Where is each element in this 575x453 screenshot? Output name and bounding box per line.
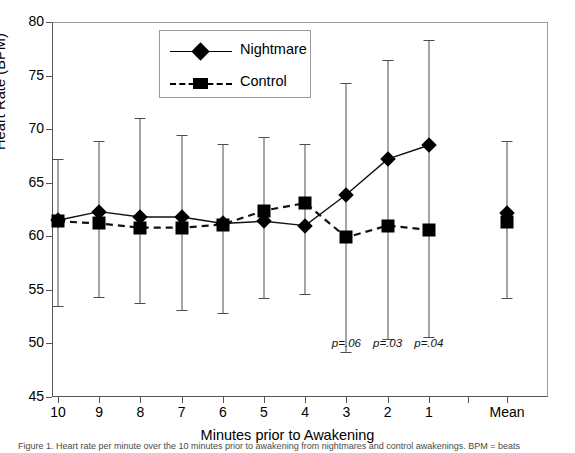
x-tick-mark bbox=[507, 397, 508, 403]
error-bar-cap bbox=[217, 144, 228, 145]
error-bar-cap bbox=[423, 40, 434, 41]
y-tick-mark bbox=[46, 290, 52, 291]
y-tick-mark bbox=[46, 129, 52, 130]
x-tick-mark bbox=[58, 397, 59, 403]
x-tick-label: 9 bbox=[79, 404, 119, 420]
diamond-icon bbox=[191, 42, 209, 60]
error-bar-cap bbox=[94, 141, 105, 142]
legend-item-control: Control bbox=[160, 71, 312, 97]
y-tick-mark bbox=[46, 22, 52, 23]
y-tick-mark bbox=[46, 236, 52, 237]
legend-item-nightmare: Nightmare bbox=[160, 39, 312, 65]
x-tick-label: 1 bbox=[409, 404, 449, 420]
data-point-control[interactable] bbox=[134, 221, 147, 234]
legend-sample-control bbox=[170, 77, 232, 91]
y-tick-label: 70 bbox=[6, 121, 44, 135]
x-tick-label: 6 bbox=[203, 404, 243, 420]
x-tick-label: 5 bbox=[244, 404, 284, 420]
p-value-label: p=.04 bbox=[399, 337, 459, 349]
x-tick-mark bbox=[182, 397, 183, 403]
error-bar-cap bbox=[135, 118, 146, 119]
x-tick-label: 2 bbox=[368, 404, 408, 420]
error-bar-cap bbox=[502, 141, 513, 142]
error-bar-cap bbox=[502, 298, 513, 299]
x-tick-mark bbox=[468, 397, 469, 403]
data-point-control[interactable] bbox=[93, 217, 106, 230]
y-tick-mark bbox=[46, 343, 52, 344]
x-tick-label: Mean bbox=[487, 404, 527, 420]
error-bar bbox=[346, 83, 347, 352]
error-bar-cap bbox=[217, 313, 228, 314]
error-bar-cap bbox=[53, 159, 64, 160]
data-point-control[interactable] bbox=[52, 215, 65, 228]
error-bar-cap bbox=[176, 135, 187, 136]
x-tick-mark bbox=[99, 397, 100, 403]
y-tick-label: 55 bbox=[6, 282, 44, 296]
y-tick-label: 65 bbox=[6, 175, 44, 189]
error-bar bbox=[428, 40, 429, 337]
error-bar-cap bbox=[300, 294, 311, 295]
x-tick-mark bbox=[140, 397, 141, 403]
x-tick-mark bbox=[305, 397, 306, 403]
error-bar-cap bbox=[135, 303, 146, 304]
error-bar-cap bbox=[259, 137, 270, 138]
y-tick-label: 80 bbox=[6, 14, 44, 28]
error-bar bbox=[58, 159, 59, 306]
y-tick-mark bbox=[46, 397, 52, 398]
y-tick-mark bbox=[46, 183, 52, 184]
legend-sample-nightmare bbox=[170, 45, 232, 59]
error-bar-cap bbox=[53, 306, 64, 307]
error-bar-cap bbox=[341, 352, 352, 353]
error-bar-cap bbox=[94, 297, 105, 298]
square-icon bbox=[193, 78, 208, 89]
y-tick-label: 45 bbox=[6, 389, 44, 403]
data-point-control[interactable] bbox=[381, 219, 394, 232]
error-bar bbox=[387, 60, 388, 340]
error-bar-cap bbox=[176, 310, 187, 311]
error-bar-cap bbox=[300, 144, 311, 145]
error-bar-cap bbox=[382, 60, 393, 61]
x-tick-label: 3 bbox=[326, 404, 366, 420]
data-point-control[interactable] bbox=[340, 231, 353, 244]
x-tick-mark bbox=[388, 397, 389, 403]
x-tick-mark bbox=[429, 397, 430, 403]
data-point-control[interactable] bbox=[216, 218, 229, 231]
heart-rate-chart-figure: Heart Rate (BPM) 8075706560555045 109876… bbox=[0, 0, 575, 453]
y-tick-label: 75 bbox=[6, 68, 44, 82]
data-point-control[interactable] bbox=[258, 204, 271, 217]
data-point-control[interactable] bbox=[175, 221, 188, 234]
error-bar-cap bbox=[341, 83, 352, 84]
x-tick-label: 4 bbox=[285, 404, 325, 420]
x-tick-mark bbox=[223, 397, 224, 403]
x-tick-mark bbox=[346, 397, 347, 403]
legend-label-control: Control bbox=[240, 73, 287, 89]
x-tick-label: 7 bbox=[162, 404, 202, 420]
x-tick-label: 10 bbox=[38, 404, 78, 420]
y-tick-label: 60 bbox=[6, 228, 44, 242]
data-point-control[interactable] bbox=[501, 216, 514, 229]
legend-label-nightmare: Nightmare bbox=[240, 41, 307, 57]
y-tick-label: 50 bbox=[6, 335, 44, 349]
x-tick-label: 8 bbox=[120, 404, 160, 420]
y-tick-mark bbox=[46, 76, 52, 77]
figure-caption: Figure 1. Heart rate per minute over the… bbox=[18, 441, 563, 452]
data-point-control[interactable] bbox=[422, 223, 435, 236]
x-tick-mark bbox=[264, 397, 265, 403]
data-point-control[interactable] bbox=[299, 197, 312, 210]
error-bar-cap bbox=[259, 298, 270, 299]
chart-legend: Nightmare Control bbox=[159, 30, 311, 98]
